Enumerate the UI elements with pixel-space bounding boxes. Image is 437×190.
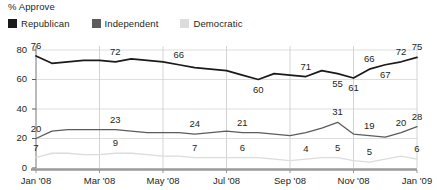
data-point-label: 19	[358, 120, 380, 131]
data-point-label: 6	[406, 143, 428, 154]
data-point-label: 21	[231, 117, 253, 128]
data-point-label: 60	[247, 84, 269, 95]
y-axis-tick-label: 40	[9, 103, 27, 114]
x-axis-tick-label: Sep '08	[262, 175, 318, 186]
data-point-label: 67	[374, 69, 396, 80]
x-axis-tick-label: Jul '08	[199, 175, 255, 186]
data-point-label: 28	[406, 111, 428, 122]
data-point-label: 71	[295, 61, 317, 72]
data-point-label: 72	[104, 46, 126, 57]
x-axis-tick-label: Jan '09	[389, 175, 437, 186]
data-point-label: 7	[25, 142, 47, 153]
data-point-label: 61	[343, 82, 365, 93]
data-point-label: 66	[358, 53, 380, 64]
x-axis-tick-label: Jan '08	[8, 175, 64, 186]
x-axis-tick-label: Nov '08	[326, 175, 382, 186]
data-point-label: 24	[184, 118, 206, 129]
data-point-label: 76	[25, 40, 47, 51]
data-point-label: 9	[104, 137, 126, 148]
y-axis-tick-label: 60	[9, 73, 27, 84]
data-point-label: 5	[358, 146, 380, 157]
y-axis-tick-label: 0	[9, 162, 27, 173]
data-point-label: 4	[295, 143, 317, 154]
data-point-label: 66	[168, 49, 190, 60]
data-point-label: 6	[231, 142, 253, 153]
data-point-label: 7	[184, 142, 206, 153]
x-axis-tick-label: Mar '08	[72, 175, 128, 186]
data-point-label: 5	[327, 142, 349, 153]
data-point-label: 20	[25, 123, 47, 134]
data-point-label: 75	[406, 41, 428, 52]
data-point-label: 31	[327, 106, 349, 117]
data-point-label: 23	[104, 114, 126, 125]
x-axis-tick-label: May '08	[135, 175, 191, 186]
